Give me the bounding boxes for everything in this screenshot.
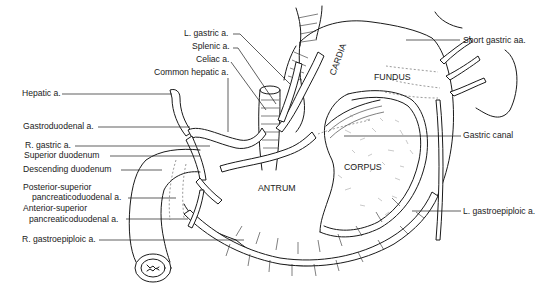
left-labels: L. gastric a. Splenic a. Celiac a. Commo… xyxy=(22,28,290,244)
label-gastric-canal: Gastric canal xyxy=(463,130,513,140)
label-l-gastric: L. gastric a. xyxy=(184,28,228,38)
label-posterior-superior-line1: Posterior-superior xyxy=(23,182,91,192)
region-label-cardia: CARDIA xyxy=(327,42,348,77)
label-r-gastroepiploic: R. gastroepiploic a. xyxy=(22,234,96,244)
region-label-antrum: ANTRUM xyxy=(258,183,296,193)
label-superior-duodenum: Superior duodenum xyxy=(24,150,100,160)
label-posterior-superior-line2: pancreaticoduodenal a. xyxy=(32,192,121,202)
label-anterior-superior-line2: pancreaticoduodenal a. xyxy=(29,214,118,224)
label-l-gastroepiploic: L. gastroepiploic a. xyxy=(463,206,535,216)
region-label-corpus: CORPUS xyxy=(344,162,382,172)
label-celiac: Celiac a. xyxy=(196,54,229,64)
label-gastroduodenal: Gastroduodenal a. xyxy=(23,121,94,131)
region-label-fundus: FUNDUS xyxy=(374,72,411,82)
spleen-outline xyxy=(435,12,517,117)
illustration: CARDIA FUNDUS CORPUS ANTRUM L. gastric a… xyxy=(0,0,556,294)
label-hepatic: Hepatic a. xyxy=(22,88,61,98)
stomach-arterial-supply-figure: CARDIA FUNDUS CORPUS ANTRUM L. gastric a… xyxy=(0,0,556,294)
label-short-gastric: Short gastric aa. xyxy=(463,35,526,45)
label-anterior-superior-line1: Anterior-superior xyxy=(23,203,87,213)
label-splenic: Splenic a. xyxy=(192,41,230,51)
label-common-hepatic: Common hepatic a. xyxy=(154,67,229,77)
label-descending-duodenum: Descending duodenum xyxy=(23,164,111,174)
label-r-gastric: R. gastric a. xyxy=(25,140,71,150)
